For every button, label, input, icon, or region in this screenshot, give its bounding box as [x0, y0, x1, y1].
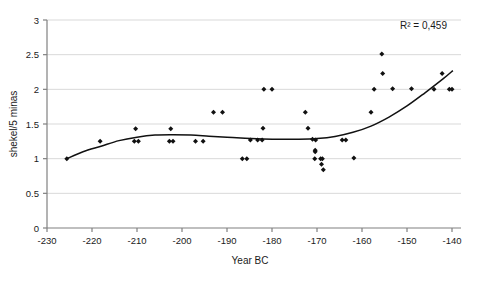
- x-tick-label--220: -220: [82, 235, 101, 246]
- x-tick-label--200: -200: [172, 235, 191, 246]
- data-point: [380, 71, 385, 76]
- x-tick-label--230: -230: [37, 235, 56, 246]
- y-tick-label-2: 2: [34, 84, 39, 95]
- tick-marks: [43, 20, 452, 232]
- y-tick-label-0: 0: [34, 223, 39, 234]
- data-point: [98, 139, 103, 144]
- x-axis-title: Year BC: [232, 255, 269, 266]
- x-tick-label--170: -170: [307, 235, 326, 246]
- data-points: [64, 51, 454, 172]
- data-point: [240, 156, 245, 161]
- y-axis-title: shekel/5 minas: [8, 91, 19, 158]
- y-tick-label-1: 1: [34, 153, 39, 164]
- x-axis-tick-labels: -230-220-210-200-190-180-170-160-150-140: [37, 235, 461, 246]
- data-point: [193, 139, 198, 144]
- y-axis-tick-labels: 00.511.522.53: [26, 15, 39, 234]
- data-point: [319, 162, 324, 167]
- y-tick-label-1.5: 1.5: [26, 119, 39, 130]
- y-tick-label-3: 3: [34, 15, 39, 26]
- data-point: [168, 126, 173, 131]
- x-tick-label--180: -180: [262, 235, 281, 246]
- data-point: [450, 87, 455, 92]
- y-tick-label-2.5: 2.5: [26, 49, 39, 60]
- data-point: [261, 126, 266, 131]
- data-point: [244, 156, 249, 161]
- trendline-path: [67, 71, 453, 159]
- x-tick-label--140: -140: [442, 235, 461, 246]
- x-tick-label--210: -210: [127, 235, 146, 246]
- data-point: [211, 110, 216, 115]
- chart-container: 00.511.522.53 -230-220-210-200-190-180-1…: [0, 0, 487, 281]
- data-point: [270, 87, 275, 92]
- data-point: [321, 167, 326, 172]
- y-tick-label-0.5: 0.5: [26, 188, 39, 199]
- data-point: [369, 110, 374, 115]
- data-point: [440, 71, 445, 76]
- data-point: [343, 137, 348, 142]
- data-point: [379, 51, 384, 56]
- data-point: [306, 126, 311, 131]
- x-tick-label--190: -190: [217, 235, 236, 246]
- gridlines: [47, 20, 461, 193]
- data-point: [64, 156, 69, 161]
- data-point: [390, 86, 395, 91]
- data-point: [303, 110, 308, 115]
- scatter-plot: 00.511.522.53 -230-220-210-200-190-180-1…: [0, 0, 487, 281]
- data-point: [261, 87, 266, 92]
- r-squared-annotation: R² = 0,459: [400, 20, 447, 31]
- trendline: [67, 71, 453, 159]
- data-point: [312, 156, 317, 161]
- data-point: [133, 126, 138, 131]
- data-point: [409, 86, 414, 91]
- x-tick-label--150: -150: [397, 235, 416, 246]
- data-point: [136, 139, 141, 144]
- x-tick-label--160: -160: [352, 235, 371, 246]
- data-point: [201, 139, 206, 144]
- data-point: [351, 155, 356, 160]
- data-point: [171, 139, 176, 144]
- data-point: [220, 110, 225, 115]
- data-point: [372, 87, 377, 92]
